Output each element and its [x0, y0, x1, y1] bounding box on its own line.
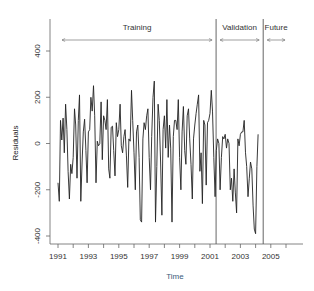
x-tick-label: 1993 — [80, 252, 98, 261]
residuals-chart: -400-2000200400 199119931995199719992001… — [0, 0, 314, 291]
x-tick-label: 2003 — [232, 252, 250, 261]
x-tick-label: 1997 — [140, 252, 158, 261]
period-annotations: TrainingValidationFuture — [62, 23, 288, 40]
y-tick-label: 200 — [33, 90, 42, 104]
x-axis-title: Time — [166, 272, 184, 281]
period-label: Training — [123, 23, 152, 32]
residuals-line — [58, 81, 258, 234]
x-tick-label: 2001 — [201, 252, 219, 261]
y-tick-label: 400 — [33, 44, 42, 58]
period-label: Validation — [222, 23, 257, 32]
x-tick-label: 1991 — [49, 252, 67, 261]
residuals-series — [58, 81, 258, 234]
period-label: Future — [265, 23, 289, 32]
x-tick-label: 2005 — [262, 252, 280, 261]
y-ticks: -400-2000200400 — [33, 44, 50, 244]
x-tick-label: 1995 — [110, 252, 128, 261]
y-tick-label: -200 — [33, 181, 42, 198]
y-axis-title: Residuals — [11, 125, 20, 160]
y-tick-label: 0 — [33, 141, 42, 146]
x-ticks: 19911993199519971999200120032005 — [49, 244, 286, 261]
y-tick-label: -400 — [33, 227, 42, 244]
x-tick-label: 1999 — [171, 252, 189, 261]
